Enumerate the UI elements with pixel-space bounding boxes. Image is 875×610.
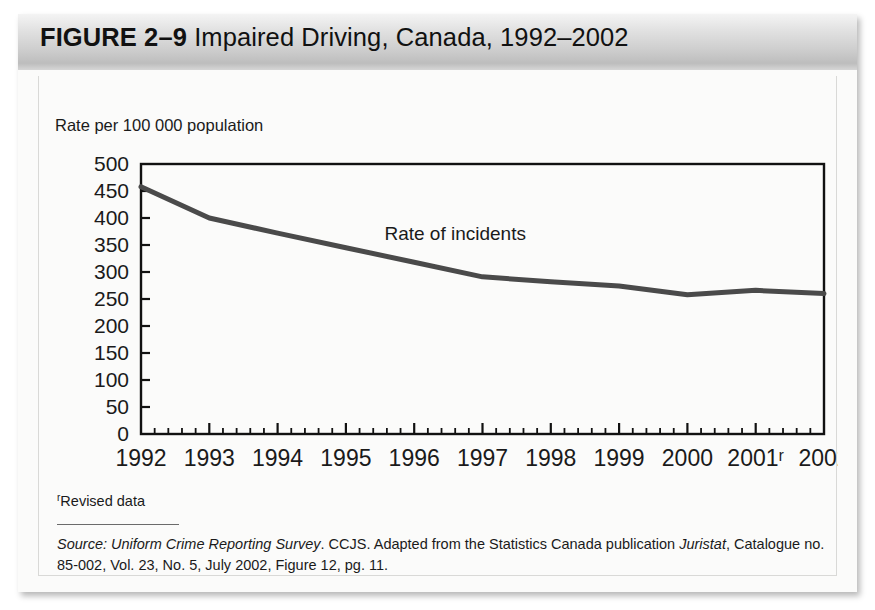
x-axis-tick-label: 1997 (457, 445, 508, 471)
y-axis-tick-label: 400 (94, 206, 129, 229)
figure-card: FIGURE 2–9 Impaired Driving, Canada, 199… (18, 14, 857, 592)
y-axis-tick-label: 250 (94, 287, 129, 310)
y-axis-caption: Rate per 100 000 population (55, 116, 263, 135)
x-axis-tick-label: 1992 (115, 445, 166, 471)
figure-title: FIGURE 2–9 Impaired Driving, Canada, 199… (40, 23, 629, 52)
plot-frame (141, 164, 824, 434)
source-divider (57, 524, 179, 525)
y-axis-tick-label: 450 (94, 179, 129, 202)
figure-title-text: Impaired Driving, Canada, 1992–2002 (187, 23, 629, 51)
y-axis-tick-label: 200 (94, 314, 129, 337)
footnote-text: Revised data (60, 493, 145, 509)
x-axis-tick-label: 2002 (798, 445, 838, 471)
figure-body-panel: Rate per 100 000 population 050100150200… (38, 76, 837, 576)
line-chart-svg: 0501001502002503003504004505001992199319… (39, 152, 838, 472)
y-axis-tick-label: 100 (94, 368, 129, 391)
y-axis-tick-label: 350 (94, 233, 129, 256)
series-annotation-label: Rate of incidents (384, 223, 526, 244)
x-axis-tick-label: 1996 (389, 445, 440, 471)
figure-title-bar: FIGURE 2–9 Impaired Driving, Canada, 199… (18, 14, 857, 70)
source-comma: , (726, 536, 730, 552)
y-axis-tick-label: 300 (94, 260, 129, 283)
source-middle: . CCJS. Adapted from the Statistics Cana… (321, 536, 680, 552)
source-note: Source: Uniform Crime Reporting Survey. … (57, 534, 825, 576)
x-axis-tick-label: 1993 (184, 445, 235, 471)
y-axis-tick-label: 50 (106, 395, 129, 418)
x-axis-tick-label: 1999 (594, 445, 645, 471)
x-axis-tick-label: 1995 (320, 445, 371, 471)
y-axis-tick-label: 150 (94, 341, 129, 364)
source-prefix: Source: (57, 536, 107, 552)
y-axis-tick-label: 500 (94, 152, 129, 175)
footnote-revised-data: rRevised data (57, 492, 145, 509)
x-axis-tick-label: 2000 (662, 445, 713, 471)
x-axis-tick-label: 2001ʳ (727, 445, 784, 471)
source-publication: Uniform Crime Reporting Survey (111, 536, 321, 552)
chart-plot-area: 0501001502002503003504004505001992199319… (39, 152, 838, 472)
source-journal: Juristat (679, 536, 726, 552)
figure-number: FIGURE 2–9 (40, 23, 187, 51)
x-axis-tick-label: 1998 (525, 445, 576, 471)
x-axis-tick-label: 1994 (252, 445, 303, 471)
y-axis-tick-label: 0 (117, 422, 129, 445)
